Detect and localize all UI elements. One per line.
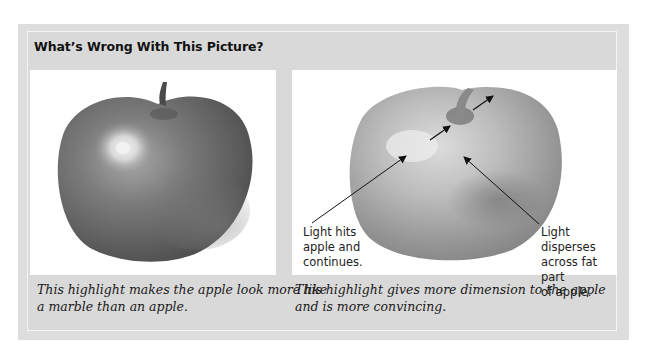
right-caption: This highlight gives more dimension to t… — [295, 281, 606, 315]
annotation-light-hits: Light hits apple and continues. — [303, 225, 363, 270]
right-image-panel: Light hits apple and continues. Light di… — [292, 70, 617, 275]
apple-marble-highlight-image — [30, 70, 276, 275]
left-image-panel — [30, 70, 276, 275]
left-caption: This highlight makes the apple look more… — [37, 281, 327, 315]
figure-title: What’s Wrong With This Picture? — [34, 39, 263, 54]
